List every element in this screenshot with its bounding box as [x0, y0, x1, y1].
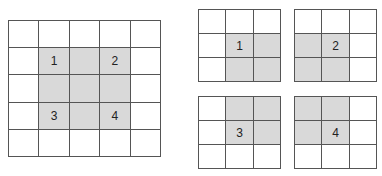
shaded-cell: 2	[100, 48, 130, 75]
grid-cell	[350, 121, 377, 145]
shaded-cell	[100, 75, 130, 102]
shaded-cell: 3	[39, 103, 69, 130]
grid-cell	[131, 103, 161, 130]
cell-label: 2	[332, 39, 339, 53]
shaded-cell	[295, 97, 322, 121]
grid-cell	[70, 130, 100, 157]
grid-cell	[100, 21, 130, 48]
grid-cell	[9, 48, 39, 75]
cell-label: 1	[236, 39, 243, 53]
shaded-cell: 4	[322, 121, 349, 145]
sub-grid-4: 4	[294, 96, 377, 169]
grid-cell	[199, 10, 226, 34]
shaded-cell	[322, 58, 349, 82]
shaded-cell	[226, 58, 253, 82]
shaded-cell: 1	[39, 48, 69, 75]
shaded-cell: 2	[322, 34, 349, 58]
shaded-cell	[295, 34, 322, 58]
shaded-cell	[254, 58, 281, 82]
grid-cell	[9, 103, 39, 130]
grid-cell	[199, 97, 226, 121]
shaded-cell	[322, 97, 349, 121]
shaded-cell	[254, 34, 281, 58]
grid-cell	[322, 10, 349, 34]
shaded-cell: 4	[100, 103, 130, 130]
shaded-cell	[254, 121, 281, 145]
grid-cell	[9, 130, 39, 157]
grid-cell	[350, 145, 377, 169]
cell-label: 3	[51, 109, 58, 123]
grid-cell	[9, 21, 39, 48]
cell-label: 2	[112, 54, 119, 68]
grid-cell	[199, 58, 226, 82]
cell-label: 3	[236, 126, 243, 140]
grid-cell	[39, 21, 69, 48]
sub-grid-1: 1	[198, 9, 281, 82]
grid-cell	[295, 145, 322, 169]
grid-cell	[350, 97, 377, 121]
shaded-cell	[254, 97, 281, 121]
main-grid: 1234	[8, 20, 161, 157]
shaded-cell: 1	[226, 34, 253, 58]
grid-cell	[322, 145, 349, 169]
grid-cell	[9, 75, 39, 102]
sub-grid-2: 2	[294, 9, 377, 82]
cell-label: 4	[332, 126, 339, 140]
grid-cell	[39, 130, 69, 157]
grid-cell	[70, 21, 100, 48]
shaded-cell	[39, 75, 69, 102]
grid-cell	[350, 10, 377, 34]
grid-cell	[131, 75, 161, 102]
grid-cell	[350, 34, 377, 58]
grid-cell	[100, 130, 130, 157]
shaded-cell	[295, 121, 322, 145]
grid-cell	[131, 130, 161, 157]
grid-cell	[350, 58, 377, 82]
grid-cell	[199, 34, 226, 58]
grid-cell	[131, 21, 161, 48]
shaded-cell	[226, 97, 253, 121]
cell-label: 1	[51, 54, 58, 68]
shaded-cell	[295, 58, 322, 82]
grid-cell	[254, 145, 281, 169]
grid-cell	[131, 48, 161, 75]
shaded-cell	[70, 75, 100, 102]
grid-cell	[295, 10, 322, 34]
cell-label: 4	[112, 109, 119, 123]
shaded-cell	[70, 48, 100, 75]
grid-cell	[254, 10, 281, 34]
grid-cell	[226, 145, 253, 169]
grid-cell	[226, 10, 253, 34]
grid-cell	[199, 145, 226, 169]
sub-grid-3: 3	[198, 96, 281, 169]
shaded-cell	[70, 103, 100, 130]
grid-cell	[199, 121, 226, 145]
shaded-cell: 3	[226, 121, 253, 145]
